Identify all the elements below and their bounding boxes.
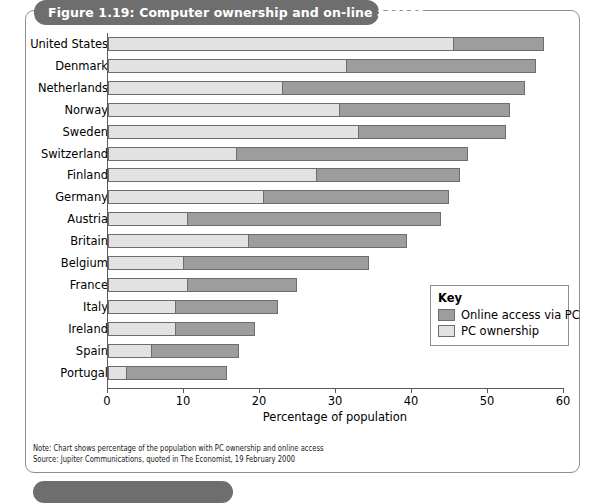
x-axis-tick-label: 20 [252,394,267,408]
x-axis-title: Percentage of population [107,410,563,424]
bar-segment-pc-ownership [108,322,176,336]
bar-segment-online-access [453,37,544,51]
category-label: Britain [16,235,108,247]
bar-row [108,190,449,204]
bar-segment-online-access [339,103,510,117]
figure-title-bar: Figure 1.19: Computer ownership and on-l… [34,0,379,25]
x-axis-tick-label: 10 [176,394,191,408]
bar-segment-online-access [346,59,535,73]
next-figure-title-bar [33,481,233,503]
bar-segment-online-access [187,212,442,226]
bar-row [108,234,407,248]
bar-row [108,256,369,270]
legend-item-online-access: Online access via PC [438,308,561,322]
bar-segment-pc-ownership [108,190,264,204]
x-axis-tick-label: 50 [480,394,495,408]
figure-title: Figure 1.19: Computer ownership and on-l… [48,5,424,20]
category-label: Ireland [16,323,108,335]
category-label: Austria [16,213,108,225]
bar-segment-online-access [358,125,506,139]
legend-swatch-pc-ownership [438,325,455,337]
category-label: Finland [16,169,108,181]
bar-row [108,212,441,226]
x-axis-tick [411,388,412,393]
bar-segment-pc-ownership [108,81,283,95]
category-label: United States [16,38,108,50]
bar-segment-online-access [183,256,369,270]
legend-item-pc-ownership: PC ownership [438,324,561,338]
footnote-note: Note: Chart shows percentage of the popu… [33,443,511,454]
x-axis-tick [335,388,336,393]
chart-plot-area: United StatesDenmarkNetherlandsNorwaySwe… [26,33,581,413]
bar-row [108,278,297,292]
legend-label-online-access: Online access via PC [461,308,580,322]
x-axis-tick [563,388,564,393]
category-label: Italy [16,301,108,313]
bar-segment-pc-ownership [108,366,127,380]
bar-row [108,103,510,117]
bar-row [108,37,544,51]
bar-row [108,300,278,314]
x-axis-tick [259,388,260,393]
bar-segment-pc-ownership [108,125,359,139]
category-label: Portugal [16,367,108,379]
bar-segment-pc-ownership [108,256,184,270]
figure-footnotes: Note: Chart shows percentage of the popu… [33,443,553,465]
x-axis-tick-label: 60 [556,394,571,408]
category-label: Sweden [16,126,108,138]
bar-row [108,366,227,380]
bar-segment-pc-ownership [108,234,249,248]
category-label: Norway [16,104,108,116]
bar-segment-online-access [316,168,460,182]
bar-segment-pc-ownership [108,212,188,226]
category-label: Belgium [16,257,108,269]
bar-segment-pc-ownership [108,37,454,51]
legend-swatch-online-access [438,309,455,321]
bar-segment-online-access [126,366,227,380]
bar-segment-online-access [248,234,408,248]
bar-segment-online-access [282,81,525,95]
category-label: Netherlands [16,82,108,94]
footnote-source: Source: Jupiter Communications, quoted i… [33,454,511,465]
bar-segment-pc-ownership [108,300,176,314]
category-label: Spain [16,345,108,357]
figure-panel: Figure 1.19: Computer ownership and on-l… [25,10,580,473]
bar-segment-pc-ownership [108,168,317,182]
x-axis-tick [487,388,488,393]
legend-title: Key [438,291,561,305]
bar-segment-online-access [236,147,468,161]
x-axis-tick-label: 30 [328,394,343,408]
bar-row [108,125,506,139]
bar-row [108,168,460,182]
bar-segment-pc-ownership [108,147,237,161]
x-axis-tick-label: 40 [404,394,419,408]
bar-segment-online-access [175,300,278,314]
category-axis-labels: United StatesDenmarkNetherlandsNorwaySwe… [26,33,108,388]
bar-row [108,344,239,358]
bar-row [108,147,468,161]
category-label: France [16,279,108,291]
chart-legend: Key Online access via PC PC ownership [430,285,569,346]
bar-segment-pc-ownership [108,59,347,73]
bar-segment-online-access [175,322,255,336]
bar-segment-online-access [263,190,449,204]
category-label: Switzerland [16,148,108,160]
x-axis-tick [183,388,184,393]
bar-segment-pc-ownership [108,103,340,117]
x-axis-tick [107,388,108,393]
bar-segment-online-access [187,278,297,292]
bar-segment-pc-ownership [108,344,152,358]
legend-label-pc-ownership: PC ownership [461,324,539,338]
bar-row [108,322,255,336]
bar-row [108,81,525,95]
bar-segment-pc-ownership [108,278,188,292]
bar-row [108,59,536,73]
x-axis-tick-label: 0 [103,394,110,408]
bar-segment-online-access [151,344,239,358]
category-label: Denmark [16,60,108,72]
x-axis: Percentage of population 0102030405060 [107,388,563,389]
category-label: Germany [16,191,108,203]
